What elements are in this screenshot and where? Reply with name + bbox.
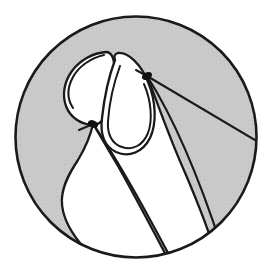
illustration-canvas: Circular vignette line drawing of a thum…: [0, 0, 271, 276]
pinch-gesture-illustration: [0, 0, 271, 276]
